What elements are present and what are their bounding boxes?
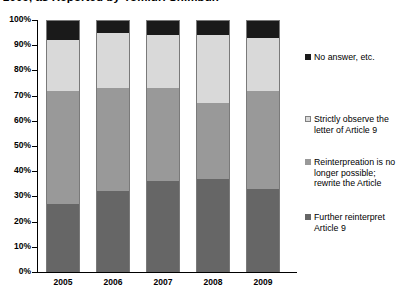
bar-column[interactable] xyxy=(246,20,280,272)
bar-segment[interactable] xyxy=(96,191,130,272)
y-axis-tick xyxy=(32,96,37,97)
y-axis-tick-label: 0% xyxy=(1,267,31,276)
y-axis-tick xyxy=(32,45,37,46)
bar-segment[interactable] xyxy=(246,91,280,189)
y-axis-tick xyxy=(32,272,37,273)
legend-label: Further reinterpret Article 9 xyxy=(314,212,402,233)
bar-segment[interactable] xyxy=(146,20,180,35)
y-axis-tick-label: 70% xyxy=(1,91,31,100)
y-axis-tick-label: 50% xyxy=(1,141,31,150)
bar-segment[interactable] xyxy=(96,20,130,33)
bar-segment[interactable] xyxy=(146,35,180,88)
y-axis-tick-label: 40% xyxy=(1,166,31,175)
y-axis-tick xyxy=(32,222,37,223)
x-axis-tick-label: 2008 xyxy=(190,277,236,287)
bar-segment[interactable] xyxy=(196,179,230,272)
y-axis-tick xyxy=(32,20,37,21)
bar-segment[interactable] xyxy=(246,20,280,38)
x-axis-tick-label: 2009 xyxy=(240,277,286,287)
y-axis-tick-label: 80% xyxy=(1,65,31,74)
y-axis-tick-label: 60% xyxy=(1,116,31,125)
legend-label: Strictly observe the letter of Article 9 xyxy=(314,114,402,135)
x-axis-line xyxy=(37,272,297,273)
bar-segment[interactable] xyxy=(96,33,130,88)
legend-entry[interactable]: Strictly observe the letter of Article 9 xyxy=(305,114,402,135)
legend-label: No answer, etc. xyxy=(314,52,375,63)
y-axis-tick xyxy=(32,171,37,172)
legend-swatch-icon xyxy=(305,54,311,60)
y-axis-tick xyxy=(32,247,37,248)
bar-segment[interactable] xyxy=(46,20,80,40)
legend-swatch-icon xyxy=(305,214,311,220)
bar-column[interactable] xyxy=(196,20,230,272)
legend-label: Reinterpreation is no longer possible; r… xyxy=(314,157,402,189)
y-axis-tick-label: 30% xyxy=(1,191,31,200)
bar-segment[interactable] xyxy=(46,91,80,204)
legend-swatch-icon xyxy=(305,159,311,165)
legend-entry[interactable]: No answer, etc. xyxy=(305,52,402,63)
bar-segment[interactable] xyxy=(196,103,230,179)
y-axis-tick xyxy=(32,146,37,147)
bar-segment[interactable] xyxy=(246,189,280,272)
bar-segment[interactable] xyxy=(96,88,130,191)
bar-segment[interactable] xyxy=(146,88,180,181)
y-axis-tick xyxy=(32,121,37,122)
y-axis-tick-label: 20% xyxy=(1,217,31,226)
y-axis-tick-label: 100% xyxy=(1,15,31,24)
y-axis-tick-label: 90% xyxy=(1,40,31,49)
y-axis-tick-label: 10% xyxy=(1,242,31,251)
bar-column[interactable] xyxy=(96,20,130,272)
y-axis-labels: 100%90%80%70%60%50%40%30%20%10%0% xyxy=(0,0,31,295)
chart-title: 2009, as Reported by Yomiuri Shimbun xyxy=(3,0,283,3)
x-axis-tick-label: 2006 xyxy=(90,277,136,287)
y-axis-tick xyxy=(32,196,37,197)
y-axis-tick xyxy=(32,70,37,71)
legend-entry[interactable]: Further reinterpret Article 9 xyxy=(305,212,402,233)
bar-segment[interactable] xyxy=(246,38,280,91)
x-axis-tick-label: 2005 xyxy=(40,277,86,287)
bar-column[interactable] xyxy=(46,20,80,272)
bar-segment[interactable] xyxy=(146,181,180,272)
plot-area xyxy=(38,20,296,272)
x-axis-tick-label: 2007 xyxy=(140,277,186,287)
legend-swatch-icon xyxy=(305,116,311,122)
legend-entry[interactable]: Reinterpreation is no longer possible; r… xyxy=(305,157,402,189)
bar-segment[interactable] xyxy=(196,35,230,103)
bar-column[interactable] xyxy=(146,20,180,272)
bar-segment[interactable] xyxy=(196,20,230,35)
bar-segment[interactable] xyxy=(46,40,80,90)
bar-segment[interactable] xyxy=(46,204,80,272)
